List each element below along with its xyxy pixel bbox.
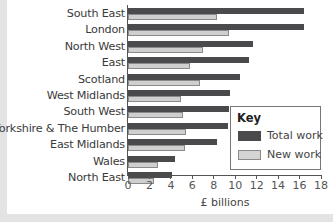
x-tick-label: 6 [182,179,202,192]
x-tick-label: 12 [247,179,267,192]
bar-new-work [128,129,186,135]
category-label: South West [63,106,125,118]
category-label: Yorkshire & The Humber [0,123,125,135]
bar-new-work [128,30,229,36]
legend-swatch-new [238,150,261,160]
x-axis-label: £ billions [195,196,255,209]
bar-new-work [128,112,183,118]
bar-new-work [128,162,158,168]
x-tick-label: 4 [161,179,181,192]
legend-label-new: New work [267,148,321,161]
x-tick-label: 8 [204,179,224,192]
x-tick-label: 14 [268,179,288,192]
category-label: East [102,57,125,69]
category-label: West Midlands [47,90,125,102]
category-label: North West [65,41,125,53]
category-label: South East [67,8,125,20]
x-tick-label: 10 [225,179,245,192]
bar-new-work [128,96,181,102]
x-tick-label: 16 [290,179,310,192]
bar-new-work [128,14,217,20]
x-tick-label: 18 [311,179,331,192]
category-label: Wales [93,156,125,168]
legend-label-total: Total work [267,129,323,142]
bar-new-work [128,63,190,69]
x-tick-label: 0 [118,179,138,192]
bar-new-work [128,47,203,53]
category-label: Scotland [78,74,125,86]
category-label: East Midlands [50,139,125,151]
bar-new-work [128,145,185,151]
x-tick-label: 2 [139,179,159,192]
legend-swatch-total [238,131,261,141]
bar-new-work [128,80,200,86]
category-label: North East [68,172,125,184]
legend-title: Key [237,111,261,125]
legend: Key Total work New work [230,106,321,170]
category-label: London [85,24,125,36]
